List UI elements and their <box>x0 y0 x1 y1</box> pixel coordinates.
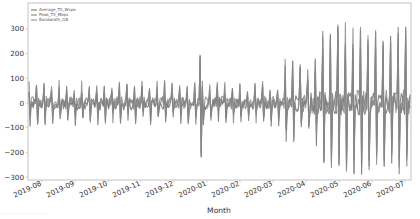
x-tick-label: 2019-09 <box>45 178 76 199</box>
y-tick-label: 300 <box>10 24 24 33</box>
x-tick-label: 2020-07 <box>375 179 406 200</box>
x-tick-label: 2020-02 <box>210 179 241 200</box>
plot-area <box>28 3 411 180</box>
y-tick-label: 0 <box>19 99 24 108</box>
y-tick-label: −100 <box>4 123 24 132</box>
x-tick-label: 2020-03 <box>243 179 274 200</box>
y-tick-label: 100 <box>10 74 24 83</box>
x-axis: 2019-082019-092019-102019-112019-122020-… <box>12 178 406 199</box>
x-tick-label: 2020-01 <box>177 179 208 200</box>
legend-label: Bandwidth_GB <box>39 17 68 22</box>
x-tick-label: 2019-10 <box>78 178 109 199</box>
x-tick-label: 2020-05 <box>309 179 340 200</box>
x-tick-label: 2019-12 <box>144 179 175 200</box>
x-tick-label: 2019-08 <box>12 178 43 199</box>
y-tick-label: 200 <box>10 49 24 58</box>
x-tick-label: 2020-04 <box>276 178 307 199</box>
x-axis-label: Month <box>207 206 231 215</box>
x-tick-label: 2019-11 <box>111 179 142 200</box>
line-chart: 3002001000−100−200−300 2019-082019-09201… <box>0 0 420 219</box>
y-tick-label: −200 <box>4 148 24 157</box>
x-tick-label: 2020-06 <box>342 178 373 199</box>
caption: .................................... <box>2 210 48 215</box>
y-axis: 3002001000−100−200−300 <box>4 24 28 181</box>
y-tick-label: −300 <box>4 173 24 182</box>
